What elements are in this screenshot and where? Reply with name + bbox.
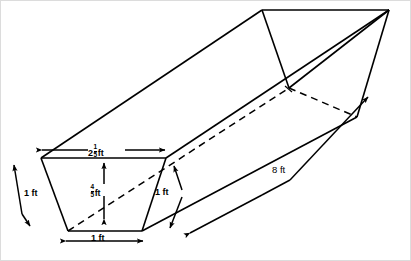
top-width-unit: ft [98,148,104,158]
trough-drawing [0,0,411,261]
height-numerator: 4 [91,184,95,191]
length-label: 8 ft [272,165,285,175]
top-width-numerator: 1 [94,144,98,151]
geometry-figure: 215ft 45ft 1 ft 1 ft 1 ft 8 ft [0,0,411,261]
height-label: 45ft [90,184,101,198]
right-slant-label: 1 ft [155,188,169,197]
top-width-fraction: 15 [94,144,98,158]
height-unit: ft [95,188,101,198]
figure-border [1,1,411,261]
top-width-label: 215ft [88,144,104,158]
left-slant-label: 1 ft [24,189,38,198]
height-fraction: 45 [91,184,95,198]
height-denominator: 5 [91,191,95,199]
top-width-whole: 2 [88,148,93,158]
bottom-width-label: 1 ft [91,234,105,243]
top-width-denominator: 5 [94,151,98,159]
